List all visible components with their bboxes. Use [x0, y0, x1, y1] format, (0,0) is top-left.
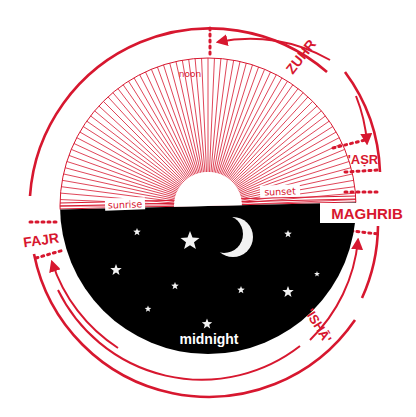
maghrib-label: MAGHRIB	[331, 205, 403, 222]
fajr-label: FAJR	[22, 230, 60, 251]
prayer-times-dial: noon sunrise sunset midnight ZUHR 'AṢR M…	[0, 0, 416, 417]
asr-marker-bottom	[345, 170, 378, 172]
fajr-marker-bottom	[36, 250, 64, 258]
asr-marker-top	[333, 140, 365, 148]
sunrise-label: sunrise	[108, 198, 143, 210]
asr-label: 'AṢR	[348, 152, 379, 167]
sunset-label: sunset	[264, 185, 296, 197]
noon-label: noon	[179, 69, 201, 79]
midnight-label: midnight	[179, 331, 238, 347]
isha-label: 'ISHĀ'	[302, 306, 334, 346]
